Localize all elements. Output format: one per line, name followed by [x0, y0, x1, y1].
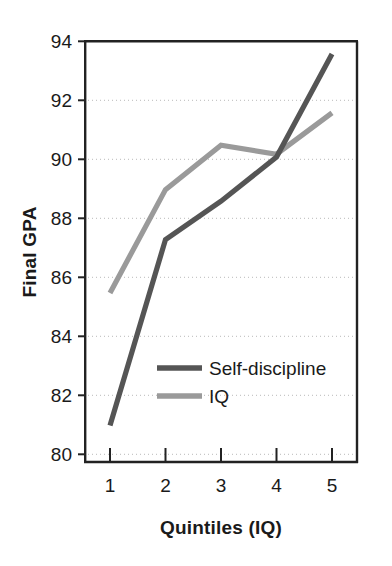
y-tick-label-90: 90 [51, 149, 72, 170]
y-tick-labels: 94 92 90 88 86 84 82 80 [51, 31, 73, 465]
x-tick-label-1: 1 [105, 475, 116, 496]
legend-label-iq: IQ [209, 386, 229, 407]
y-tick-label-94: 94 [51, 31, 73, 52]
y-axis-title: Final GPA [19, 206, 40, 297]
chart-container: 94 92 90 88 86 84 82 80 1 2 3 4 5 Self-d… [0, 0, 392, 566]
x-tick-labels: 1 2 3 4 5 [105, 475, 338, 496]
x-tick-label-3: 3 [216, 475, 227, 496]
y-tick-label-92: 92 [51, 90, 72, 111]
legend-label-self-discipline: Self-discipline [209, 358, 326, 379]
y-tick-label-86: 86 [51, 267, 72, 288]
y-tick-label-84: 84 [51, 326, 73, 347]
x-tick-marks [110, 448, 332, 462]
y-tick-marks [78, 41, 85, 454]
y-tick-label-88: 88 [51, 208, 72, 229]
x-tick-label-5: 5 [327, 475, 338, 496]
x-tick-label-2: 2 [160, 475, 171, 496]
line-chart: 94 92 90 88 86 84 82 80 1 2 3 4 5 Self-d… [0, 0, 392, 566]
x-axis-title: Quintiles (IQ) [160, 517, 282, 538]
x-tick-label-4: 4 [271, 475, 282, 496]
y-tick-label-80: 80 [51, 444, 72, 465]
y-tick-label-82: 82 [51, 385, 72, 406]
chart-legend: Self-discipline IQ [157, 358, 326, 407]
